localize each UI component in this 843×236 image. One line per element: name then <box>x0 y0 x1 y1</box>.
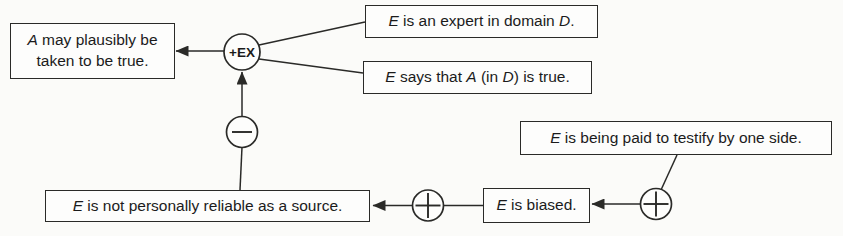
argument-diagram: +EX A may plausibly be taken to be true.… <box>0 0 843 236</box>
text-run: is not personally reliable as a source. <box>83 197 342 214</box>
text-run: may plausibly be taken to be true. <box>36 31 157 69</box>
node-conclusion: A may plausibly be taken to be true. <box>10 23 175 79</box>
var-D: D <box>559 12 570 29</box>
text-run: ) is true. <box>514 68 570 85</box>
var-A: A <box>27 31 37 48</box>
var-E: E <box>550 129 560 146</box>
text-run: . <box>570 12 574 29</box>
node-text: E is an expert in domain D. <box>388 11 574 32</box>
node-text: E is not personally reliable as a source… <box>73 196 343 217</box>
con-node-minus <box>227 117 258 148</box>
var-E: E <box>388 12 398 29</box>
node-reliability-rebuttal: E is not personally reliable as a source… <box>45 190 370 222</box>
pro-node-plus-1 <box>413 190 444 221</box>
node-expert-premise: E is an expert in domain D. <box>365 5 598 38</box>
text-run: says that <box>396 68 467 85</box>
ex-node-label: +EX <box>229 45 255 60</box>
edge-paid-to-plus2 <box>661 155 677 190</box>
node-text: A may plausibly be taken to be true. <box>15 30 170 72</box>
var-E: E <box>73 197 83 214</box>
scheme-node-ex: +EX <box>224 34 260 70</box>
var-E: E <box>385 68 395 85</box>
var-A: A <box>466 68 476 85</box>
node-text: E is biased. <box>496 195 576 216</box>
edge-rebuttal-to-minus <box>240 147 242 190</box>
node-paid-testimony: E is being paid to testify by one side. <box>520 121 832 155</box>
edge-expert-to-ex <box>259 22 365 45</box>
text-run: is an expert in domain <box>399 12 559 29</box>
node-bias: E is biased. <box>483 188 590 223</box>
pro-node-plus-2 <box>641 189 672 220</box>
node-text: E is being paid to testify by one side. <box>550 128 802 149</box>
text-run: (in <box>477 68 503 85</box>
text-run: is being paid to testify by one side. <box>561 129 802 146</box>
var-D: D <box>503 68 514 85</box>
var-E: E <box>496 196 506 213</box>
text-run: is biased. <box>507 196 577 213</box>
node-assertion-premise: E says that A (in D) is true. <box>363 61 592 94</box>
edge-says-to-ex <box>259 59 363 73</box>
node-text: E says that A (in D) is true. <box>385 67 569 88</box>
